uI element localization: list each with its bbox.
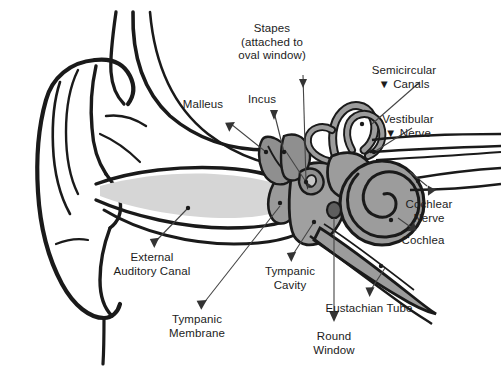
anchor-dot-eustachian <box>379 264 383 268</box>
label-incus: Incus <box>232 93 292 107</box>
label-external-auditory-canal: External Auditory Canal <box>92 251 212 278</box>
ear-anatomy-diagram: Stapes (attached to oval window) Semicir… <box>0 0 501 383</box>
label-tympanic-cavity: Tympanic Cavity <box>245 265 335 292</box>
anchor-dot-tympanic-cavity <box>312 220 316 224</box>
label-eustachian-tube: Eustachian Tube <box>304 302 434 316</box>
label-vestibular-nerve: Vestibular ▼ Nerve <box>348 113 468 140</box>
label-stapes: Stapes (attached to oval window) <box>212 22 332 63</box>
round-window-shape <box>327 202 341 218</box>
label-cochlear-nerve: Cochlear Nerve <box>379 198 479 225</box>
label-tympanic-membrane: Tympanic Membrane <box>147 313 247 340</box>
label-malleus: Malleus <box>168 98 238 112</box>
label-semicircular-canals: Semicircular ▼ Canals <box>344 64 464 91</box>
anchor-dot-external-canal <box>186 206 190 210</box>
jaw-contour-line <box>103 318 104 364</box>
anchor-dot-malleus <box>264 150 268 154</box>
round-window-group <box>327 202 341 218</box>
anchor-dot-cochlear-nerve <box>416 179 420 183</box>
label-cochlea: Cochlea <box>383 234 463 248</box>
anchor-dot-tympanic-membrane <box>278 201 282 205</box>
label-round-window: Round Window <box>294 330 374 357</box>
anchor-dot-vestibular <box>372 150 376 154</box>
anchor-dot-incus <box>282 150 286 154</box>
anchor-dot-stapes <box>304 180 308 184</box>
